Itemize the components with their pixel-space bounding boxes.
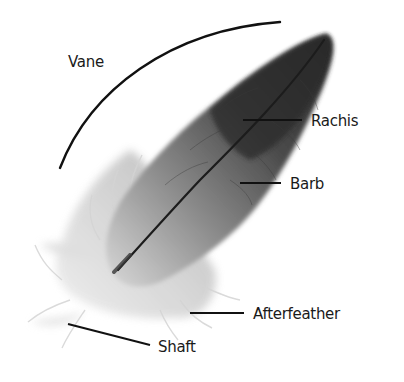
- feather-illustration: [0, 0, 404, 382]
- shaft-leader-line: [68, 324, 150, 345]
- label-barb: Barb: [290, 177, 324, 192]
- label-shaft: Shaft: [158, 340, 196, 355]
- label-vane: Vane: [68, 55, 104, 70]
- feather-diagram: Vane Rachis Barb Afterfeather Shaft: [0, 0, 404, 382]
- label-rachis: Rachis: [311, 114, 358, 129]
- label-afterfeather: Afterfeather: [253, 307, 340, 322]
